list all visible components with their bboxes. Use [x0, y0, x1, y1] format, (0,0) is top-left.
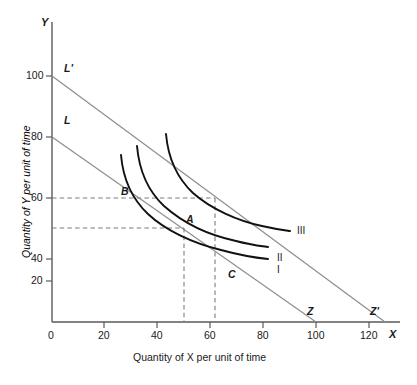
label-L: L: [64, 115, 70, 126]
indifference-curve-figure: 100 80 60 40 20 0 20 40 60 80 100 120 Y …: [0, 0, 417, 385]
indifference-curves: [121, 134, 290, 259]
axes: [52, 22, 400, 322]
budget-line-L-prime: [52, 76, 385, 322]
x-axis-ticks: [104, 322, 369, 328]
label-point-A: A: [186, 214, 194, 225]
y-tick-40: 40: [31, 253, 43, 264]
label-curve-I: I: [277, 265, 280, 275]
x-tick-100: 100: [307, 330, 325, 341]
chart-canvas: [0, 0, 417, 385]
x-tick-40: 40: [151, 330, 163, 341]
label-point-B: B: [121, 186, 129, 197]
indifference-curve-III: [166, 134, 290, 231]
indifference-curve-II: [137, 146, 268, 247]
y-tick-80: 80: [31, 131, 43, 142]
label-Z: Z: [307, 306, 313, 317]
x-axis-title: Quantity of X per unit of time: [133, 352, 266, 363]
label-curve-II: II: [277, 253, 283, 263]
y-axis-title: Quantity of Y per unit of time: [20, 125, 32, 258]
label-L-prime: L': [64, 63, 73, 74]
x-tick-60: 60: [204, 330, 216, 341]
x-tick-120: 120: [360, 330, 378, 341]
label-point-C: C: [228, 269, 236, 280]
x-tick-20: 20: [98, 330, 110, 341]
label-curve-III: III: [297, 226, 305, 236]
y-tick-20: 20: [31, 275, 43, 286]
y-tick-100: 100: [26, 70, 44, 81]
x-axis-symbol: X: [389, 329, 396, 340]
x-tick-0: 0: [48, 330, 54, 341]
y-tick-60: 60: [31, 192, 43, 203]
y-axis-symbol: Y: [41, 17, 48, 28]
label-Z-prime: Z': [370, 306, 379, 317]
budget-lines: [52, 76, 385, 322]
y-axis-ticks: [46, 76, 52, 281]
x-tick-80: 80: [257, 330, 269, 341]
